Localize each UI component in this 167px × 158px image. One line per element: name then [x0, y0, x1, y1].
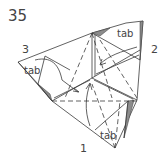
tab-label-top-right: tab	[117, 28, 133, 39]
corner-label-2: 2	[151, 43, 158, 56]
corner-label-1: 1	[80, 142, 87, 155]
tab-label-left: tab	[24, 65, 40, 76]
origami-diagram: 3 2 1 tab tab tab	[0, 0, 167, 158]
corner-label-3: 3	[22, 43, 29, 56]
tab-label-bottom: tab	[100, 130, 116, 141]
